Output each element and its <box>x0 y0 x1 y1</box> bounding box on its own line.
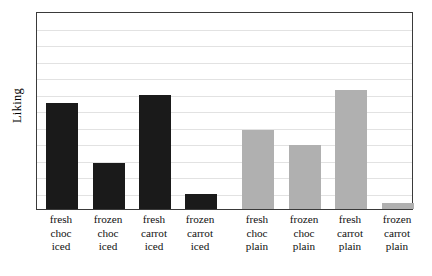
x-axis-tick-label-line: iced <box>129 240 179 254</box>
x-axis-tick-label: freshchocplain <box>232 213 282 254</box>
x-axis-tick-label-line: carrot <box>325 227 375 241</box>
plot-area <box>36 12 413 210</box>
bar <box>93 163 125 209</box>
x-axis-tick-label-line: fresh <box>129 213 179 227</box>
bar <box>139 95 171 209</box>
bar <box>289 145 321 209</box>
x-axis-tick-label-line: frozen <box>83 213 133 227</box>
bar <box>185 194 217 209</box>
x-axis-tick-label-line: carrot <box>129 227 179 241</box>
bar <box>335 90 367 209</box>
x-axis-tick-label-line: iced <box>83 240 133 254</box>
x-axis-tick-label-line: fresh <box>232 213 282 227</box>
x-axis-tick-label: frozencarroticed <box>175 213 225 254</box>
x-axis-tick-label-line: choc <box>83 227 133 241</box>
bar-chart-figure: Liking freshchocicedfrozenchocicedfreshc… <box>0 0 432 276</box>
x-axis-tick-label-line: choc <box>232 227 282 241</box>
x-axis-tick-label: frozenchociced <box>83 213 133 254</box>
x-axis-tick-label-line: fresh <box>325 213 375 227</box>
y-axis-title: Liking <box>10 87 25 122</box>
x-axis-tick-label-line: plain <box>372 240 422 254</box>
x-axis-tick-label-line: iced <box>175 240 225 254</box>
x-axis-tick-label-line: frozen <box>372 213 422 227</box>
x-axis-tick-label-line: plain <box>279 240 329 254</box>
bar <box>46 103 78 209</box>
bars-group <box>37 13 412 209</box>
x-axis-tick-label-line: choc <box>279 227 329 241</box>
x-axis-tick-label-line: plain <box>325 240 375 254</box>
x-axis-tick-label-line: choc <box>36 227 86 241</box>
x-axis-tick-label-line: carrot <box>175 227 225 241</box>
x-axis-tick-label: freshcarrotplain <box>325 213 375 254</box>
x-axis-tick-label: frozenchocplain <box>279 213 329 254</box>
x-axis-tick-label-line: plain <box>232 240 282 254</box>
x-axis-tick-label-line: fresh <box>36 213 86 227</box>
bar <box>242 130 274 209</box>
y-axis-title-container: Liking <box>0 0 36 210</box>
x-axis-tick-label-line: frozen <box>175 213 225 227</box>
x-axis-tick-label: freshcarroticed <box>129 213 179 254</box>
x-axis-tick-label: freshchociced <box>36 213 86 254</box>
x-axis-tick-label-line: iced <box>36 240 86 254</box>
x-axis-tick-label: frozencarrotplain <box>372 213 422 254</box>
x-axis-tick-label-line: frozen <box>279 213 329 227</box>
bar <box>382 203 414 209</box>
x-axis-tick-label-line: carrot <box>372 227 422 241</box>
x-axis-tick-labels: freshchocicedfrozenchocicedfreshcarrotic… <box>36 213 413 273</box>
